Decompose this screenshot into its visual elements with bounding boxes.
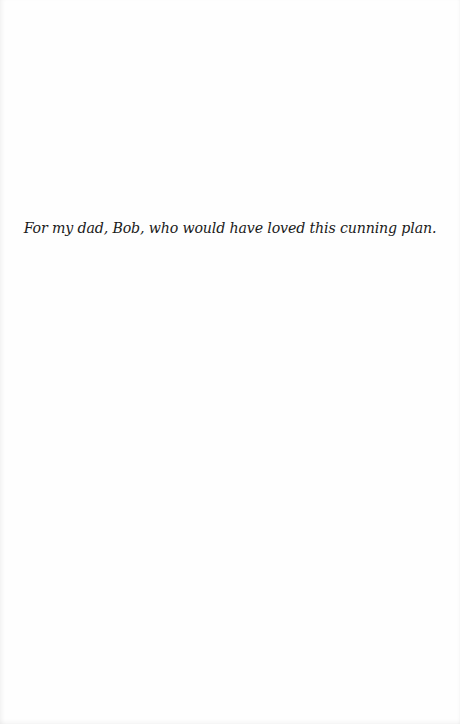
dedication-text: For my dad, Bob, who would have loved th… xyxy=(0,219,460,237)
book-page: For my dad, Bob, who would have loved th… xyxy=(0,0,460,724)
